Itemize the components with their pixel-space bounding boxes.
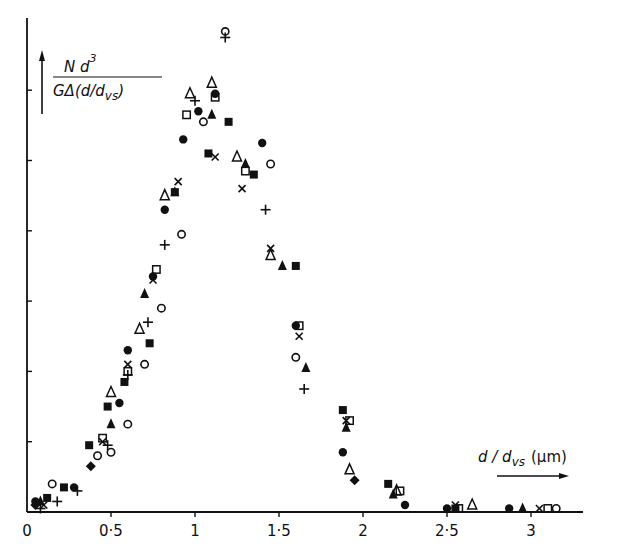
x-title: d / dvs(μm) [478,448,567,469]
x-tick-label: 2·5 [435,522,459,540]
plus-marker-icon [52,496,62,506]
open-triangle-marker-icon [135,323,144,333]
open-triangle-marker-icon [107,386,116,396]
filled-triangle-marker-icon [278,260,287,270]
open-circle-marker-icon [124,420,131,427]
open-triangle-marker-icon [468,499,477,509]
filled-diamond-marker-icon [86,461,96,471]
filled-triangle-marker-icon [140,288,149,298]
open-circle-marker-icon [141,361,148,368]
filled-square-marker-icon [204,149,212,157]
filled-circle-marker-icon [505,504,513,512]
cross-marker-icon [536,505,543,512]
x-tick-label: 1·5 [267,522,291,540]
filled-circle-marker-icon [124,346,132,354]
filled-square-marker-icon [146,339,154,347]
x-tick-label: 1 [190,522,200,540]
cross-marker-icon [175,178,182,185]
cross-marker-icon [212,153,219,160]
open-square-marker-icon [544,505,551,512]
open-square-marker-icon [242,167,249,174]
x-tick-label: 3 [526,522,536,540]
filled-triangle-marker-icon [301,362,310,372]
axis-labels: N d3 GΔ(d/dvs) d / dvs(μm) [39,50,569,479]
filled-square-marker-icon [339,406,347,414]
filled-triangle-marker-icon [518,502,527,512]
filled-square-marker-icon [85,441,93,449]
filled-square-marker-icon [171,188,179,196]
open-circle-marker-icon [292,354,299,361]
open-circle-marker-icon [94,452,101,459]
open-circle-marker-icon [158,304,165,311]
open-triangle-marker-icon [233,151,242,161]
x-tick-label: 0 [22,522,32,540]
open-circle-marker-icon [49,480,56,487]
x-tick-label: 0·5 [99,522,123,540]
cross-marker-icon [239,185,246,192]
filled-circle-marker-icon [443,504,451,512]
open-circle-marker-icon [178,231,185,238]
plus-marker-icon [299,384,309,394]
open-square-marker-icon [183,111,190,118]
filled-circle-marker-icon [115,399,123,407]
cross-marker-icon [124,361,131,368]
filled-square-marker-icon [384,480,392,488]
filled-triangle-marker-icon [241,158,250,168]
y-title-denominator: GΔ(d/dvs) [53,82,124,103]
filled-square-marker-icon [250,171,258,179]
filled-circle-marker-icon [401,501,409,509]
plus-marker-icon [160,240,170,250]
filled-square-marker-icon [292,262,300,270]
y-title-numerator: N d3 [64,52,97,76]
open-circle-marker-icon [200,118,207,125]
filled-circle-marker-icon [339,448,347,456]
x-tick-label: 2 [358,522,368,540]
filled-triangle-marker-icon [107,418,116,428]
open-triangle-marker-icon [160,190,169,200]
x-title-arrow-icon [559,473,569,479]
open-circle-marker-icon [553,505,560,512]
filled-circle-marker-icon [258,139,266,147]
filled-diamond-marker-icon [350,475,360,485]
plus-marker-icon [261,205,271,215]
open-square-marker-icon [153,266,160,273]
filled-circle-marker-icon [194,107,202,115]
filled-square-marker-icon [225,118,233,126]
filled-circle-marker-icon [161,206,169,214]
open-triangle-marker-icon [185,88,194,98]
open-triangle-marker-icon [345,464,354,474]
open-triangle-marker-icon [207,77,216,87]
filled-triangle-marker-icon [207,109,216,119]
plus-marker-icon [143,317,153,327]
cross-marker-icon [296,333,303,340]
filled-square-marker-icon [60,483,68,491]
open-circle-marker-icon [267,160,274,167]
filled-square-marker-icon [43,494,51,502]
y-title-arrow-icon [39,50,45,61]
scatter-chart: 00·511·522·53 N d3 GΔ(d/dvs) d / dvs(μm) [0,0,617,559]
filled-square-marker-icon [104,403,112,411]
filled-circle-marker-icon [179,135,187,143]
